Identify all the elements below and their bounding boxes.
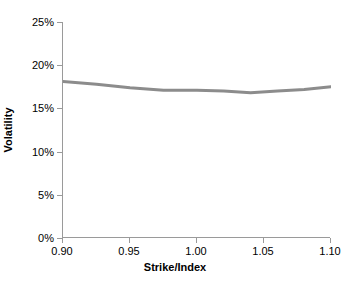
y-tick-mark: [57, 195, 62, 196]
plot-area: [62, 22, 330, 238]
x-tick-mark: [330, 238, 331, 243]
plot-svg: [63, 22, 331, 238]
y-tick-mark: [57, 108, 62, 109]
y-tick-label: 15%: [32, 103, 54, 114]
y-tick-mark: [57, 152, 62, 153]
x-tick-mark: [129, 238, 130, 243]
x-tick-label: 1.00: [185, 246, 206, 257]
x-tick-mark: [196, 238, 197, 243]
y-tick-label: 0%: [38, 233, 54, 244]
x-tick-label: 0.90: [51, 246, 72, 257]
y-tick-mark: [57, 22, 62, 23]
y-tick-mark: [57, 65, 62, 66]
data-series-line: [63, 82, 331, 93]
y-tick-label: 5%: [38, 189, 54, 200]
x-tick-label: 1.10: [319, 246, 340, 257]
y-tick-label: 20%: [32, 60, 54, 71]
y-axis-title: Volatility: [2, 107, 15, 152]
y-tick-label: 25%: [32, 17, 54, 28]
x-tick-label: 0.95: [118, 246, 139, 257]
x-axis-title: Strike/Index: [0, 261, 350, 274]
x-tick-label: 1.05: [252, 246, 273, 257]
x-tick-mark: [263, 238, 264, 243]
x-tick-mark: [62, 238, 63, 243]
y-tick-label: 10%: [32, 146, 54, 157]
volatility-smile-chart: 25%20%15%10%5%0% 0.900.951.001.051.10 Vo…: [0, 0, 350, 282]
